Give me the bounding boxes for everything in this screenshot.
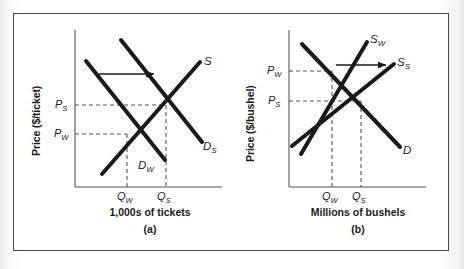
panel-a-price-tick-ps: PS (55, 98, 67, 113)
panel-b-ylabel: Price ($/bushel) (244, 85, 256, 162)
panel-b-quantity-tick-qw: QW (322, 190, 338, 205)
panel-b-supply-winter-curve (301, 42, 367, 154)
panel-b-shift-arrow (336, 62, 386, 69)
panel-b-demand-curve (302, 44, 400, 147)
panel-b-curve-label-d: D (403, 144, 411, 159)
panel-a-xlabel: 1,000s of tickets (75, 206, 225, 218)
panel-a-quantity-tick-qs: QS (157, 190, 171, 205)
panel-b-guides (289, 71, 361, 187)
panel-b-curve-label-ss: SS (397, 56, 410, 71)
panel-b-supply-summer-curve (292, 64, 394, 146)
panel-a-curve-label-s: S (204, 55, 212, 70)
panel-b-curve-label-sw: SW (370, 33, 385, 48)
panel-b-xlabel: Millions of bushels (284, 206, 432, 218)
panel-b-letter: (b) (284, 223, 432, 235)
panel-a-price-tick-pw: PW (54, 127, 68, 142)
figure-page: Price ($/ticket) PS PW QW QS S DS (0, 0, 464, 269)
panel-b-quantity-tick-qs: QS (352, 190, 366, 205)
panel-a-curve-label-dw: DW (138, 159, 154, 174)
panel-a-ylabel: Price ($/ticket) (30, 86, 42, 156)
figure-frame: Price ($/ticket) PS PW QW QS S DS (13, 13, 449, 251)
panel-a-quantity-tick-qw: QW (117, 190, 133, 205)
panel-a-demand-summer-curve (121, 40, 202, 142)
panel-b: Price ($/bushel) PW PS QW QS SW SS (214, 14, 432, 252)
panel-a-letter: (a) (75, 223, 225, 235)
panel-b-price-tick-ps: PS (268, 94, 280, 109)
panel-b-price-tick-pw: PW (267, 64, 281, 79)
panel-a: Price ($/ticket) PS PW QW QS S DS (14, 14, 232, 252)
